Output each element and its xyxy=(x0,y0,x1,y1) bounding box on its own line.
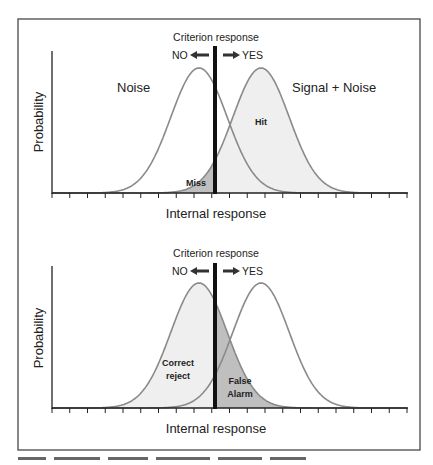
caption-fragment xyxy=(18,457,46,460)
x-axis-ticks xyxy=(52,193,407,198)
criterion-label: Criterion response xyxy=(173,31,259,43)
miss-label: Miss xyxy=(186,178,206,188)
x-axis-label: Internal response xyxy=(166,421,266,436)
yes-label: YES xyxy=(242,265,263,277)
correct-reject-label-line1: Correct xyxy=(162,358,194,368)
caption-cutoff xyxy=(18,457,418,465)
false-alarm-label-line2: Alarm xyxy=(227,389,253,399)
caption-fragment xyxy=(270,457,306,460)
yes-label: YES xyxy=(242,49,263,61)
false-alarm-label-line1: False xyxy=(228,376,251,386)
caption-fragment xyxy=(156,457,210,460)
y-axis-label: Probability xyxy=(31,91,46,152)
caption-fragment xyxy=(218,457,262,460)
no-label: NO xyxy=(172,265,188,277)
caption-fragment xyxy=(54,457,100,460)
criterion-line xyxy=(213,46,217,194)
signal-noise-label: Signal + Noise xyxy=(292,80,376,95)
hit-label: Hit xyxy=(255,117,267,127)
noise-label: Noise xyxy=(117,80,150,95)
criterion-label: Criterion response xyxy=(173,247,259,259)
x-axis-ticks xyxy=(52,408,407,413)
no-label: NO xyxy=(172,49,188,61)
caption-fragment xyxy=(108,457,148,460)
criterion-line xyxy=(213,263,217,409)
x-axis-label: Internal response xyxy=(166,206,266,221)
y-axis-label: Probability xyxy=(31,307,46,368)
signal-detection-figure: Criterion response NO YES Noise Signal +… xyxy=(0,0,433,465)
correct-reject-label-line2: reject xyxy=(166,371,190,381)
